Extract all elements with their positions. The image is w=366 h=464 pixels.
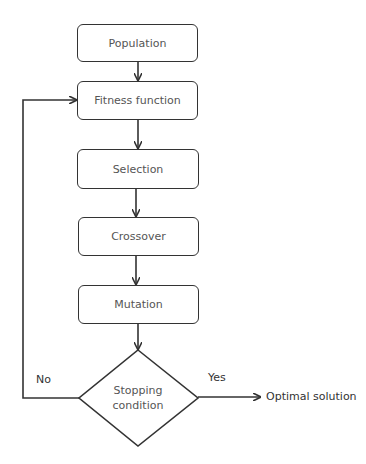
node-selection: Selection (77, 149, 199, 189)
node-mutation: Mutation (78, 285, 199, 324)
decision-line-1: Stopping (88, 383, 188, 398)
node-population: Population (77, 24, 198, 62)
edge-label-no: No (36, 373, 51, 386)
node-label: Selection (113, 163, 164, 176)
decision-label: Stopping condition (88, 383, 188, 413)
node-label: Population (109, 37, 167, 50)
arrow-no-loop (23, 100, 79, 398)
node-label: Mutation (114, 298, 163, 311)
node-label: Crossover (111, 230, 166, 243)
node-fitness-function: Fitness function (77, 81, 198, 120)
node-label: Fitness function (94, 94, 181, 107)
node-crossover: Crossover (78, 217, 199, 256)
edge-label-yes: Yes (208, 371, 226, 384)
decision-line-2: condition (88, 398, 188, 413)
node-optimal-solution: Optimal solution (266, 390, 357, 403)
